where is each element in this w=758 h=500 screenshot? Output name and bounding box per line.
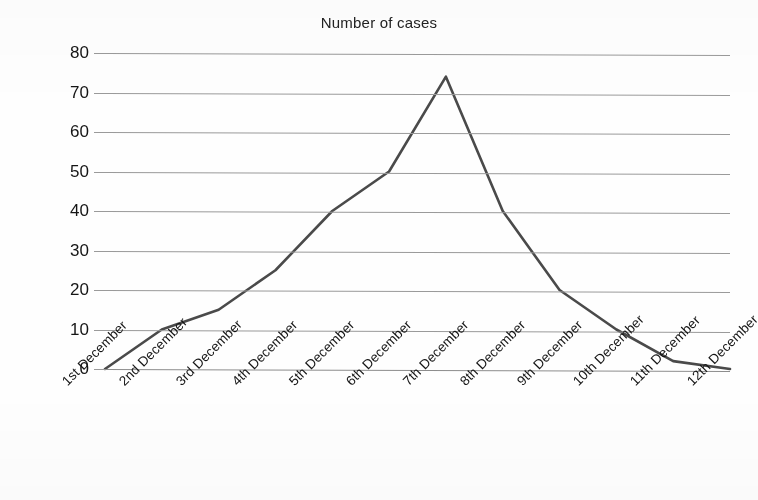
y-axis-tick-label: 10 <box>70 320 89 340</box>
line-chart: Number of cases 80706050403020100 1st De… <box>0 0 758 500</box>
y-axis-tick-mark <box>94 172 105 173</box>
y-axis-tick-label: 20 <box>70 280 89 300</box>
y-axis-tick-label: 60 <box>70 122 89 142</box>
y-axis-tick-mark <box>94 290 105 291</box>
y-axis-tick-mark <box>94 93 105 94</box>
chart-title: Number of cases <box>0 14 758 31</box>
y-axis-tick-mark <box>94 369 105 370</box>
y-axis-tick-label: 50 <box>70 162 89 182</box>
y-axis-tick-label: 30 <box>70 241 89 261</box>
y-axis-tick-mark <box>94 132 105 133</box>
y-axis-tick-label: 80 <box>70 43 89 63</box>
y-axis-tick-mark <box>94 251 105 252</box>
y-axis-tick-mark <box>94 211 105 212</box>
y-axis-tick-mark <box>94 53 105 54</box>
x-axis-labels: 1st December2nd December3rd December4th … <box>105 372 730 492</box>
y-axis-tick-label: 40 <box>70 201 89 221</box>
y-axis-tick-label: 70 <box>70 83 89 103</box>
y-axis-tick-mark <box>94 330 105 331</box>
